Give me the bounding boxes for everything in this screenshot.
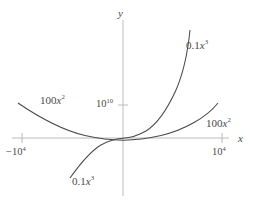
y-axis-name: y [118, 8, 123, 19]
x-axis-tick-label-positive: 104 [212, 147, 226, 158]
curve-cubic-01x3 [70, 30, 190, 178]
curve-label-cubic-upper: 0.1x3 [186, 40, 208, 51]
plot-canvas [0, 0, 255, 204]
curve-quadratic-100x2 [18, 103, 218, 140]
curve-label-cubic-lower: 0.1x3 [72, 176, 94, 187]
y-axis-tick-label: 1010 [96, 99, 113, 110]
x-axis-tick-label-negative: −104 [6, 147, 26, 158]
x-axis-name: x [238, 133, 243, 144]
growth-rate-comparison-figure: 0.1x3 0.1x3 100x2 100x2 1010 −104 104 x … [0, 0, 255, 204]
curve-label-quadratic-right: 100x2 [206, 118, 231, 129]
curve-label-quadratic-left: 100x2 [40, 95, 65, 106]
